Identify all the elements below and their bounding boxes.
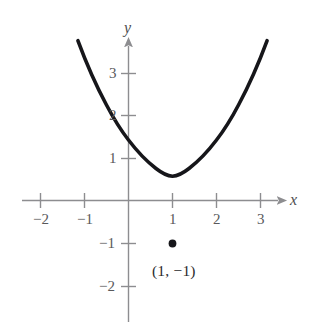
y-tick-label-2: 2: [109, 108, 117, 123]
x-tick-label-3: 3: [257, 212, 265, 227]
x-tick-label-2: 2: [213, 212, 221, 227]
y-tick-label-1: 1: [109, 151, 117, 166]
x-tick-label-neg1: −1: [77, 212, 93, 227]
vertex-coordinate-label: (1, −1): [152, 263, 196, 279]
y-axis-label: y: [124, 20, 131, 36]
x-axis-label: x: [290, 192, 297, 208]
x-tick-label-1: 1: [169, 212, 177, 227]
vertex-point-marker: [169, 240, 177, 248]
parabola-curve: [78, 41, 267, 177]
graph-canvas: [0, 0, 317, 333]
y-tick-label-neg2: −2: [99, 279, 115, 294]
y-tick-label-3: 3: [109, 66, 117, 81]
x-tick-label-neg2: −2: [33, 212, 49, 227]
y-tick-label-neg1: −1: [99, 236, 115, 251]
parabola-figure: −2 −1 1 2 3 3 2 1 −1 −2 x y (1, −1): [0, 0, 317, 333]
